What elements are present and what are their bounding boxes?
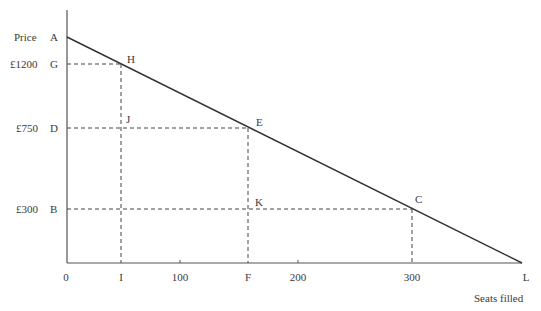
point-label-g: G: [50, 58, 58, 70]
demand-diagram: [0, 0, 541, 311]
point-label-c: C: [415, 193, 422, 205]
x-tick-100: 100: [172, 271, 189, 283]
point-label-d: D: [50, 122, 58, 134]
point-label-b: B: [50, 203, 57, 215]
point-label-h: H: [127, 53, 135, 65]
x-tick-f: F: [245, 271, 251, 283]
price-label-750: £750: [16, 122, 38, 134]
price-label-1200: £1200: [10, 58, 38, 70]
price-label-300: £300: [16, 203, 38, 215]
x-axis-title: Seats filled: [474, 292, 523, 304]
point-label-e: E: [256, 116, 263, 128]
point-label-j: J: [126, 113, 130, 125]
point-label-k: K: [255, 196, 263, 208]
point-label-a: A: [50, 31, 58, 43]
x-tick-0: 0: [63, 271, 69, 283]
demand-line: [67, 37, 522, 263]
x-tick-l: L: [523, 271, 530, 283]
x-tick-200: 200: [290, 271, 307, 283]
y-axis-title: Price: [14, 31, 37, 43]
x-tick-i: I: [119, 271, 123, 283]
x-tick-300: 300: [404, 271, 421, 283]
